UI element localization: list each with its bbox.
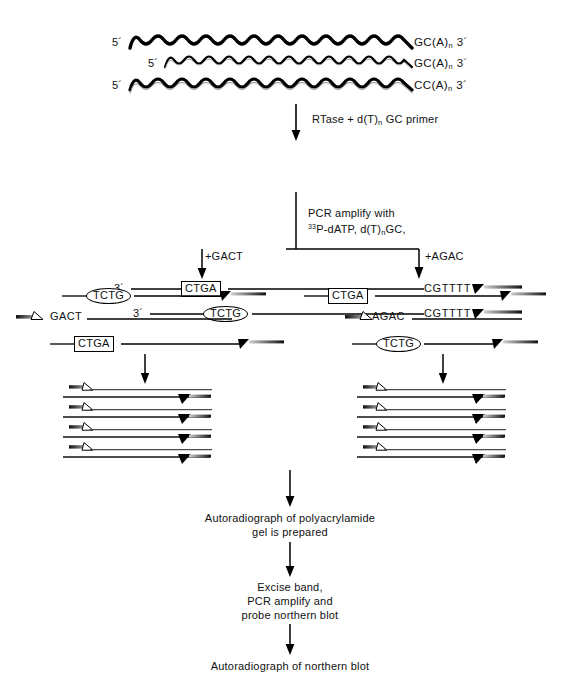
diagram-canvas: 5´ GC(A)n 3´ 5´ GC(A)n 3´ 5´ CC(A)n 3´ [0,0,584,685]
right-rowC-left-line [352,342,378,346]
step2-branch-left-label: +GACT [205,250,243,262]
step1-label: RTase + d(T)n GC primer [312,113,438,129]
right-ladder-pair-2 [357,403,506,424]
left-rowB-primer-label: GACT [50,310,82,322]
cdna-rows-group: 3´ CTGA CGTTTT 3´ TCTG CGTTTT [0,140,584,190]
step5-arrow [284,624,302,656]
right-rowA-right-line [375,294,504,298]
right-rowB-line [412,317,522,321]
right-rowC-end-marker [490,335,542,351]
step3-label-line1: Autoradiograph of polyacrylamide [170,512,410,524]
left-ladder-pair-3 [63,423,212,444]
step1-arrow [290,104,310,142]
right-rowA-end-marker [498,287,550,303]
left-rowC-end-marker [236,335,288,351]
right-ladder-pair-1 [357,383,506,404]
step4-label-line3: probe northern blot [170,609,410,621]
gact-panel: TCTG GACT CTGA [0,282,292,467]
left-rowC-right-line [121,342,243,346]
step3-label-line2: gel is prepared [170,526,410,538]
left-rowA-end-marker [218,287,270,303]
left-rowA-right-line [134,294,224,298]
strand-1-label: GC(A)n 3´ [414,36,468,50]
right-ladder [354,382,534,464]
strand-2-five-prime: 5´ [148,57,158,69]
left-rowB-primer-marker [16,310,52,324]
strand-1-five-prime: 5´ [112,36,122,48]
right-rowA-left-line [304,294,330,298]
step2-branch-right-label: +AGAC [425,250,464,262]
step3-arrow [284,470,302,508]
left-rowB-line [87,317,232,321]
strand-3-wave [128,71,416,97]
right-ladder-pair-3 [357,423,506,444]
mrna-strands-group: 5´ GC(A)n 3´ 5´ GC(A)n 3´ 5´ CC(A)n 3´ [0,0,584,110]
left-rowA-tag-tctg: TCTG [86,288,131,304]
strand-3-five-prime: 5´ [112,79,122,91]
strand-2-label: GC(A)n 3´ [414,57,468,71]
step2-label-line2: 33P-dATP, d(T)nGC, [308,221,406,239]
right-rowC-right-line [424,342,496,346]
left-ladder [60,382,240,464]
left-rowC-tag-ctga: CTGA [74,336,114,352]
step4-label-line1: Excise band, [170,581,410,593]
strand-3-label: CC(A)n 3´ [414,79,467,93]
right-ladder-pair-4 [357,443,506,464]
left-rowC-left-line [50,342,76,346]
right-rowC-tag-tctg: TCTG [376,336,421,352]
left-ladder-pair-2 [63,403,212,424]
left-rowA-left-line [62,294,88,298]
left-ladder-pair-1 [63,383,212,404]
left-ladder-pair-4 [63,443,212,464]
step4-label-line2: PCR amplify and [170,595,410,607]
step4-arrow [284,542,302,578]
right-rowA-tag-ctga: CTGA [328,288,368,304]
step2-label-line1: PCR amplify with [308,207,395,219]
step5-label: Autoradiograph of northern blot [170,660,410,672]
agac-panel: CTGA AGAC TCTG [292,282,584,467]
right-rowB-primer-label: AGAC [372,310,405,322]
